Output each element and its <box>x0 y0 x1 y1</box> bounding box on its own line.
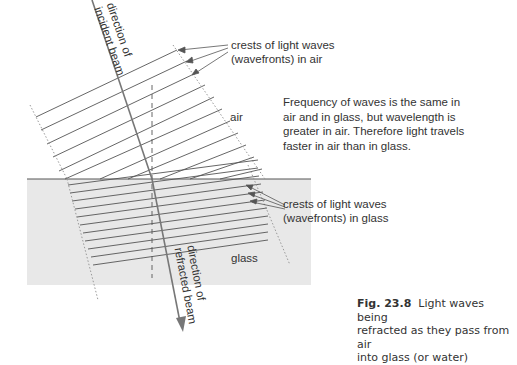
explanation-line1: Frequency of waves is the same in <box>283 95 464 110</box>
crests-glass-line1: crests of light waves <box>283 197 388 211</box>
air-envelope-left <box>30 105 67 179</box>
crests-glass-line2: (wavefronts) in glass <box>283 211 388 225</box>
explanation-line4: faster in air than in glass. <box>283 139 464 154</box>
explanation-text: Frequency of waves is the same in air an… <box>283 95 464 153</box>
explanation-line2: air and in glass, but wavelength is <box>283 110 464 125</box>
air-label: air <box>230 110 243 124</box>
figure-number: Fig. 23.8 <box>357 297 411 310</box>
crests-glass-label: crests of light waves (wavefronts) in gl… <box>283 197 388 225</box>
air-wavefronts <box>36 50 262 179</box>
explanation-line3: greater in air. Therefore light travels <box>283 124 464 139</box>
figure-caption: Fig. 23.8 Light waves being refracted as… <box>357 297 517 365</box>
crests-air-line2: (wavefronts) in air <box>231 52 335 66</box>
caption-line2: refracted as they pass from air <box>357 324 517 351</box>
air-crest-leaders <box>178 45 228 75</box>
crests-air-label: crests of light waves (wavefronts) in ai… <box>231 38 335 66</box>
caption-line3: into glass (or water) <box>357 351 517 365</box>
crests-air-line1: crests of light waves <box>231 38 335 52</box>
glass-label: glass <box>231 251 258 265</box>
